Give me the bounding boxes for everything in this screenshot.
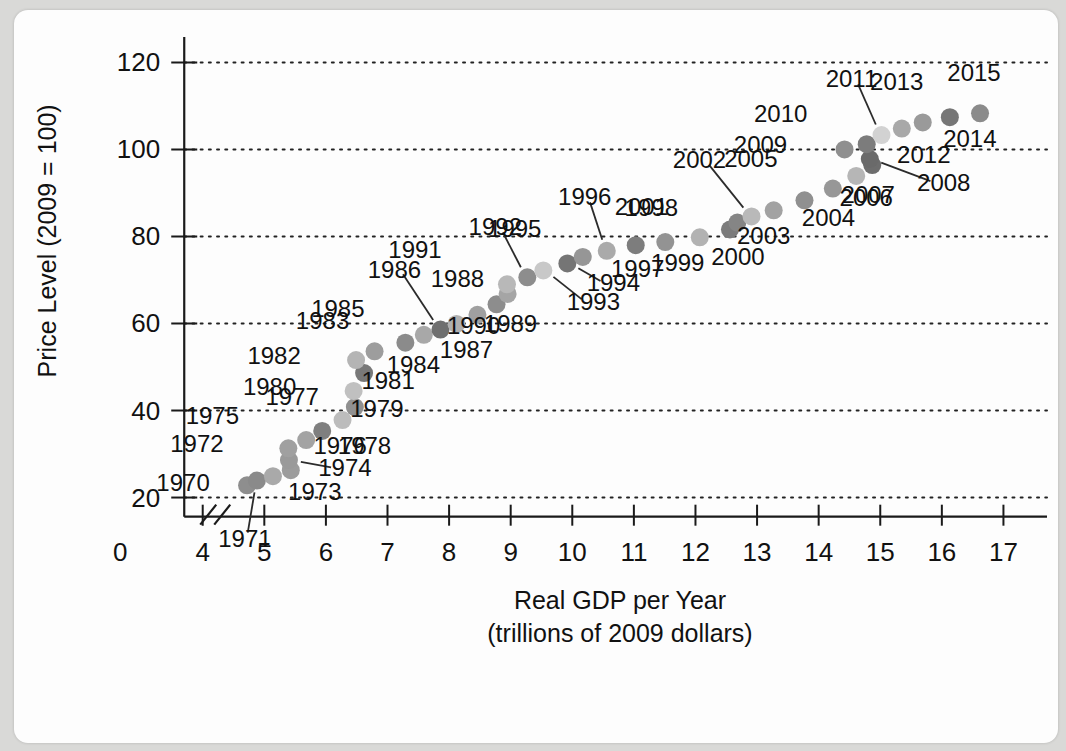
y-tick-label-80: 80 [131,221,160,251]
data-point-2014[interactable] [941,108,959,126]
point-label-1991: 1991 [388,236,441,263]
point-label-1970: 1970 [156,469,209,496]
point-label-2001: 2001 [615,193,668,220]
y-axis-title: Price Level (2009 = 100) [33,104,61,377]
data-point-1993[interactable] [534,261,552,279]
point-label-1990: 1990 [447,312,500,339]
data-point-2015[interactable] [971,104,989,122]
point-label-2014: 2014 [943,125,996,152]
data-point-1999[interactable] [691,228,709,246]
x-tick-label-14: 14 [804,537,833,567]
point-label-2003: 2003 [737,222,790,249]
data-point-1976[interactable] [297,431,315,449]
y-tick-label-120: 120 [117,47,160,77]
point-label-2013: 2013 [870,68,923,95]
data-point-1978[interactable] [334,411,352,429]
x-tick-label-13: 13 [743,537,772,567]
point-label-1971: 1971 [218,525,271,552]
point-label-1982: 1982 [247,342,300,369]
point-label-2010: 2010 [754,100,807,127]
x-tick-label-17: 17 [989,537,1018,567]
data-point-1983[interactable] [366,342,384,360]
x-axis-title: Real GDP per Year [514,586,726,614]
data-point-1975[interactable] [279,439,297,457]
origin-label: 0 [113,537,127,567]
y-tick-label-40: 40 [131,396,160,426]
point-label-2007: 2007 [842,181,895,208]
point-label-1988: 1988 [431,265,484,292]
x-tick-label-15: 15 [866,537,895,567]
point-label-1995: 1995 [488,215,541,242]
data-point-1995[interactable] [574,248,592,266]
point-label-1996: 1996 [558,183,611,210]
x-tick-label-16: 16 [927,537,956,567]
figure-page: 2040608010012045678910111213141516170Rea… [14,10,1058,743]
point-label-1973: 1973 [288,478,341,505]
point-label-1980: 1980 [243,373,296,400]
point-label-1972: 1972 [170,430,223,457]
data-point-2012[interactable] [893,120,911,138]
x-tick-label-9: 9 [503,537,517,567]
point-label-1987: 1987 [440,336,493,363]
data-point-2011[interactable] [872,126,890,144]
scatter-chart: 2040608010012045678910111213141516170Rea… [14,10,1058,743]
data-point-2008[interactable] [861,150,879,168]
point-label-1975: 1975 [186,402,239,429]
data-point-2013[interactable] [914,113,932,131]
data-point-1997[interactable] [627,236,645,254]
y-tick-label-100: 100 [117,134,160,164]
x-tick-label-10: 10 [558,537,587,567]
x-tick-label-4: 4 [195,537,209,567]
y-tick-label-60: 60 [131,308,160,338]
data-point-1991[interactable] [498,275,516,293]
x-tick-label-8: 8 [442,537,456,567]
data-point-1994[interactable] [558,254,576,272]
point-label-2009: 2009 [734,131,787,158]
point-label-2015: 2015 [947,59,1000,86]
point-label-1979: 1979 [350,395,403,422]
point-label-2008: 2008 [917,169,970,196]
data-point-1971[interactable] [248,472,266,490]
point-label-1999: 1999 [651,249,704,276]
point-label-1978: 1978 [338,432,391,459]
data-point-2003[interactable] [765,201,783,219]
data-point-1984[interactable] [396,334,414,352]
x-tick-label-12: 12 [681,537,710,567]
axis-break-mark [214,505,230,525]
point-label-1985: 1985 [311,295,364,322]
point-label-2002: 2002 [673,146,726,173]
chart-canvas: 2040608010012045678910111213141516170Rea… [14,10,1058,743]
data-point-1992[interactable] [518,268,536,286]
x-tick-label-7: 7 [380,537,394,567]
data-point-1972[interactable] [264,467,282,485]
data-point-1985[interactable] [415,326,433,344]
x-tick-label-6: 6 [319,537,333,567]
x-axis-title-units: (trillions of 2009 dollars) [487,619,752,647]
data-point-2009[interactable] [836,140,854,158]
x-tick-label-11: 11 [620,537,647,567]
point-label-1984: 1984 [387,351,440,378]
